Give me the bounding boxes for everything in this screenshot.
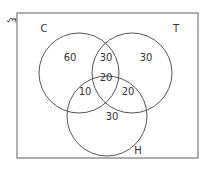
region-c-t-h-value: 20	[100, 72, 113, 83]
region-h-only-value: 30	[106, 111, 119, 122]
set-c-label: C	[41, 23, 48, 34]
region-t-h-value: 20	[122, 86, 135, 97]
set-t-label: T	[172, 23, 180, 34]
universal-set-rectangle	[17, 13, 198, 158]
set-h-label: H	[134, 145, 142, 156]
universal-set-symbol: ξ	[7, 17, 17, 22]
region-c-h-value: 10	[79, 86, 92, 97]
region-c-only-value: 60	[64, 52, 77, 63]
region-t-only-value: 30	[140, 52, 153, 63]
venn-diagram: ξ C T H 60 30 30 20 10 20 30	[0, 0, 208, 169]
region-c-t-value: 30	[100, 52, 113, 63]
